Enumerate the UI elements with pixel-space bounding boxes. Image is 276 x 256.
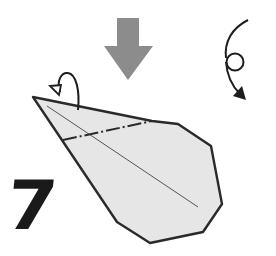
paper-shape — [33, 97, 222, 243]
paper-model — [33, 97, 222, 243]
push-arrow-icon — [104, 18, 153, 80]
turn-over-arrow-icon — [226, 20, 248, 100]
step-number: 7 — [3, 172, 60, 240]
